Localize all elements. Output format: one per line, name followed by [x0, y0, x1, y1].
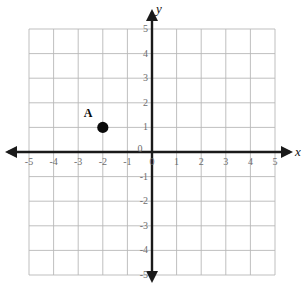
y-axis-origin-label: 0	[134, 144, 146, 154]
x-axis-tick-label: -3	[69, 157, 87, 167]
y-axis-tick-label: -1	[130, 172, 148, 182]
coordinate-plane: -5-4-3-2-11234554321-1-2-3-4-5 0 0 x y A	[0, 0, 306, 286]
point-label-a: A	[84, 107, 93, 119]
y-axis-label: y	[156, 2, 162, 15]
y-axis-tick-label: -3	[130, 221, 148, 231]
x-axis-tick-label: 3	[217, 157, 235, 167]
y-axis-tick-label: 1	[130, 122, 148, 132]
plotted-point-a[interactable]	[97, 122, 108, 133]
x-axis-tick-label: -5	[20, 157, 38, 167]
y-axis-tick-label: 5	[130, 24, 148, 34]
x-axis-origin-label: 0	[146, 157, 158, 167]
y-axis-tick-label: 3	[130, 73, 148, 83]
coordinate-plane-canvas	[0, 0, 306, 286]
x-axis-tick-label: -1	[118, 157, 136, 167]
y-axis-tick-label: -5	[130, 270, 148, 280]
y-axis-tick-label: -4	[130, 245, 148, 255]
y-axis-tick-label: -2	[130, 196, 148, 206]
x-axis-tick-label: 2	[192, 157, 210, 167]
x-axis-label: x	[295, 145, 301, 158]
x-axis-tick-label: -2	[94, 157, 112, 167]
x-axis-tick-label: 4	[241, 157, 259, 167]
x-axis-tick-label: -4	[45, 157, 63, 167]
y-axis-tick-label: 2	[130, 98, 148, 108]
axes-group	[5, 9, 293, 283]
y-axis-tick-label: 4	[130, 49, 148, 59]
plotted-points-group	[97, 122, 108, 133]
x-axis-tick-label: 1	[168, 157, 186, 167]
x-axis-arrow-left-icon	[5, 146, 17, 158]
x-axis-tick-label: 5	[266, 157, 284, 167]
